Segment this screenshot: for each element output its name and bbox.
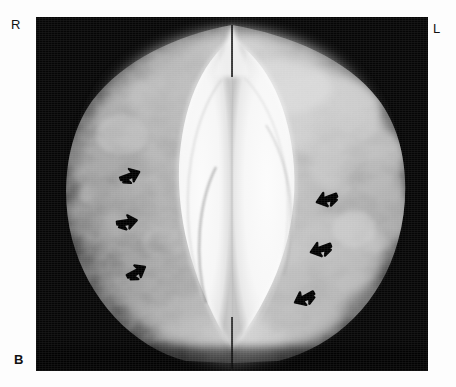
right-side-marker: R <box>11 18 21 31</box>
figure-container: R L B <box>0 0 456 387</box>
mammogram-svg <box>36 17 428 371</box>
panel-letter-label: B <box>14 353 24 366</box>
bottom-vignette <box>36 347 428 371</box>
mammogram-image <box>36 17 428 371</box>
left-side-marker: L <box>433 22 441 35</box>
figure-description: bilateral craniocaudal composite <box>0 0 1 1</box>
